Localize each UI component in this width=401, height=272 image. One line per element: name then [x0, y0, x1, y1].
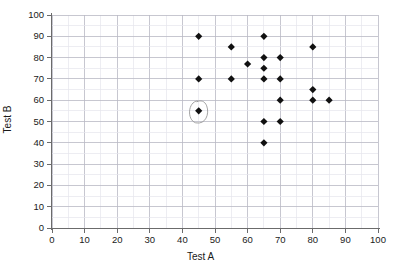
y-axis-tick-label: 90 [18, 30, 44, 41]
y-axis-tick [47, 57, 51, 58]
data-points-layer [52, 15, 378, 228]
y-axis-tick [47, 206, 51, 207]
data-point-marker [260, 65, 267, 72]
data-point-marker [309, 97, 316, 104]
x-axis-tick-label: 70 [267, 234, 293, 245]
x-axis-tick [280, 229, 281, 233]
data-point-marker [277, 75, 284, 82]
y-axis-tick [47, 100, 51, 101]
x-axis-tick-label: 40 [169, 234, 195, 245]
y-axis-tick-label: 10 [18, 201, 44, 212]
y-axis-title: Test B [2, 85, 13, 155]
x-axis-tick [84, 229, 85, 233]
data-point-marker [244, 60, 251, 67]
y-axis-tick [47, 78, 51, 79]
data-point-marker [260, 33, 267, 40]
y-axis-tick [47, 142, 51, 143]
data-point-marker [195, 75, 202, 82]
y-axis-tick-label: 50 [18, 116, 44, 127]
data-point-marker [309, 86, 316, 93]
x-axis-tick-label: 100 [365, 234, 391, 245]
x-axis-tick-label: 60 [235, 234, 261, 245]
scatter-chart: 0102030405060708090100010203040506070809… [0, 0, 401, 272]
y-axis-tick-label: 60 [18, 94, 44, 105]
data-point-marker [260, 139, 267, 146]
x-axis-title: Test A [0, 251, 401, 262]
y-axis-tick-label: 40 [18, 137, 44, 148]
y-axis-tick [47, 228, 51, 229]
x-axis-tick [312, 229, 313, 233]
data-point-marker [228, 75, 235, 82]
y-axis-tick-label: 100 [18, 9, 44, 20]
data-point-marker [277, 97, 284, 104]
x-axis-tick-label: 20 [104, 234, 130, 245]
data-point-marker [260, 118, 267, 125]
y-axis-tick-label: 0 [18, 222, 44, 233]
data-point-marker [195, 33, 202, 40]
data-point-marker [260, 75, 267, 82]
x-axis-tick [182, 229, 183, 233]
data-point-marker [326, 97, 333, 104]
x-axis-tick [247, 229, 248, 233]
y-axis-tick-label: 30 [18, 158, 44, 169]
y-axis-tick-label: 80 [18, 52, 44, 63]
y-axis-tick-label: 70 [18, 73, 44, 84]
x-axis-tick-label: 10 [72, 234, 98, 245]
x-axis-tick [52, 229, 53, 233]
x-axis-tick-label: 30 [137, 234, 163, 245]
data-point-marker [195, 107, 202, 114]
y-axis-tick [47, 36, 51, 37]
x-axis-line [51, 228, 380, 229]
y-axis-line [51, 13, 52, 230]
data-point-marker [228, 43, 235, 50]
x-axis-tick [215, 229, 216, 233]
y-axis-tick [47, 164, 51, 165]
y-axis-tick [47, 185, 51, 186]
x-axis-tick [378, 229, 379, 233]
x-axis-tick [345, 229, 346, 233]
data-point-marker [309, 43, 316, 50]
x-axis-tick-label: 80 [300, 234, 326, 245]
x-axis-tick-label: 50 [202, 234, 228, 245]
y-axis-tick-label: 20 [18, 179, 44, 190]
plot-area [52, 15, 378, 228]
data-point-marker [277, 54, 284, 61]
data-point-marker [260, 54, 267, 61]
y-axis-tick [47, 15, 51, 16]
data-point-marker [277, 118, 284, 125]
y-axis-tick [47, 121, 51, 122]
x-axis-tick [117, 229, 118, 233]
x-axis-tick [149, 229, 150, 233]
x-axis-tick-label: 90 [332, 234, 358, 245]
x-axis-tick-label: 0 [39, 234, 65, 245]
